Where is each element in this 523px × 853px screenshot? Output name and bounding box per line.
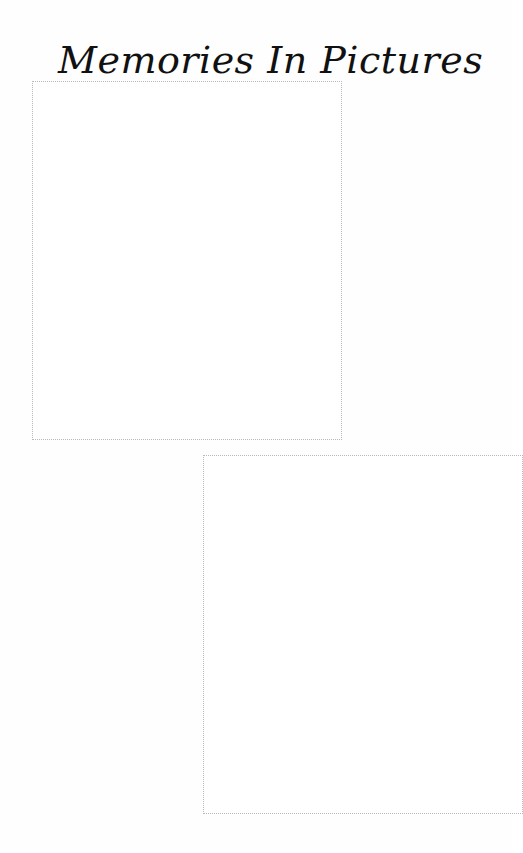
page-title: Memories In Pictures: [58, 38, 483, 82]
photo-frame-2[interactable]: [203, 455, 523, 814]
photo-frame-1[interactable]: [32, 81, 342, 440]
